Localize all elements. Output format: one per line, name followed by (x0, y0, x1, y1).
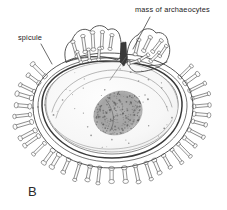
spicule-icon (18, 82, 37, 94)
spicule-icon (14, 102, 32, 109)
spicule-icon (72, 161, 82, 182)
label-mass-of-archaeocytes: mass of archaeocytes (135, 5, 210, 14)
spicule-icon (14, 90, 34, 101)
sponge-diagram: spicule mass of archaeocytes B (0, 0, 227, 210)
spicule-icon (192, 103, 211, 109)
spicule-icon (161, 153, 173, 170)
spicule-icon (182, 135, 198, 149)
label-spicule: spicule (18, 33, 42, 42)
spicule-icon (191, 119, 208, 128)
spicule-icon (97, 47, 102, 61)
spicule-icon (96, 166, 102, 185)
spicule-icon (109, 166, 115, 183)
spicule-icon (90, 31, 96, 52)
spicule-icon (31, 141, 47, 157)
spicule-icon (108, 33, 115, 51)
spicule-icon (12, 112, 31, 119)
spicule-icon (25, 72, 42, 86)
spicule-icon (187, 127, 206, 140)
spicule-icon (12, 119, 34, 130)
spicule-icon (121, 165, 128, 183)
spicule-icon (99, 30, 104, 49)
spicule-leader (41, 44, 52, 64)
spicule-icon (192, 111, 211, 118)
figure-panel-b: spicule mass of archaeocytes B (0, 0, 227, 210)
panel-letter: B (28, 184, 37, 199)
spicule-icon (80, 34, 87, 54)
spicule-icon (143, 161, 153, 182)
spicule-icon (190, 91, 211, 101)
spicule-icon (132, 164, 141, 185)
